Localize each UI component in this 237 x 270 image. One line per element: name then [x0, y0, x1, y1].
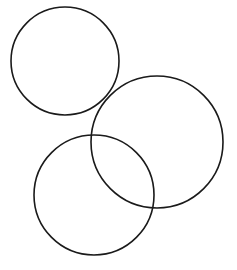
three-circles-diagram	[0, 0, 237, 270]
circle-right	[91, 76, 223, 208]
circle-top-left	[11, 7, 119, 115]
circle-bottom	[34, 135, 154, 255]
